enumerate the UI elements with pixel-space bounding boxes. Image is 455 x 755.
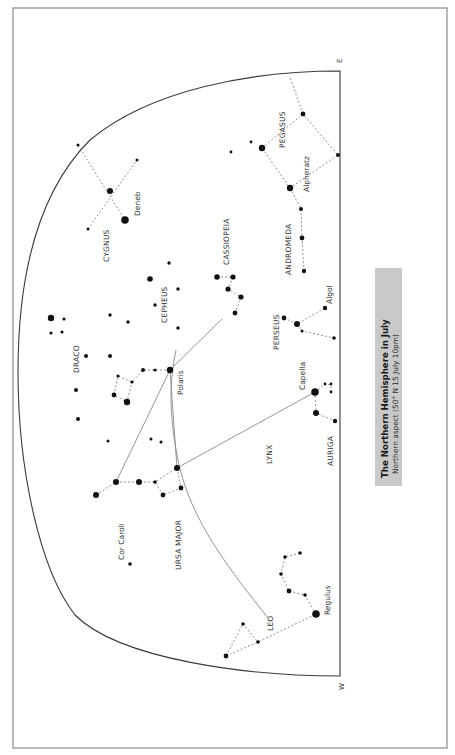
star-polaris [167, 367, 173, 373]
star-map: E W PEGASUS ANDROMEDA CASSIOPEIA CYGNUS … [0, 0, 455, 755]
label-ursa-major: URSA MAJOR [174, 520, 183, 570]
star [136, 479, 142, 485]
star [76, 417, 80, 421]
star [238, 294, 243, 299]
star [330, 391, 333, 394]
star [113, 479, 119, 485]
star [241, 622, 245, 626]
star [224, 654, 229, 659]
star [153, 480, 157, 484]
title-main: The Northern Hemisphere in July [380, 319, 390, 478]
star [230, 151, 233, 154]
star [49, 331, 52, 334]
star-regulus [312, 610, 320, 618]
perseus-lines [284, 308, 334, 338]
star [336, 153, 340, 157]
star [225, 286, 230, 291]
label-leo: LEO [266, 616, 275, 631]
label-perseus: PERSEUS [272, 314, 281, 350]
star [153, 303, 156, 306]
label-auriga: AURIGA [326, 435, 335, 466]
pointer-line-polaris-ursa [116, 370, 170, 482]
star [233, 311, 238, 316]
pegasus-lines [262, 77, 338, 188]
title-subtitle: Northern aspect (50° N 15 July 10pm) [391, 334, 400, 474]
label-lynx: LYNX [265, 445, 274, 464]
label-capella: Capella [298, 362, 307, 390]
star [179, 486, 184, 491]
leo-lines [226, 553, 316, 656]
star [108, 313, 111, 316]
star [301, 330, 304, 333]
star [283, 555, 287, 559]
star [324, 383, 327, 386]
label-alpheratz: Alpheratz [302, 156, 311, 192]
label-polaris: Polaris [176, 370, 185, 395]
title-box: The Northern Hemisphere in July Northern… [375, 268, 402, 486]
star [259, 145, 265, 151]
star [112, 393, 117, 398]
star [214, 274, 220, 280]
star [302, 269, 306, 273]
star [167, 261, 170, 264]
star [230, 274, 235, 279]
cygnus-lines [78, 145, 137, 229]
star [282, 316, 287, 321]
inner-arc [171, 350, 268, 618]
star [250, 141, 253, 144]
little-dipper-lines [114, 370, 170, 402]
star [279, 572, 283, 576]
label-cassiopeia: CASSIOPEIA [222, 218, 231, 265]
star [48, 315, 54, 321]
star [93, 492, 99, 498]
star [153, 368, 156, 371]
star-algol [323, 306, 327, 310]
star [313, 410, 319, 416]
star [176, 287, 179, 290]
label-cor-caroli: Cor Caroli [117, 523, 126, 560]
star [116, 374, 119, 377]
star [108, 354, 112, 358]
label-deneb: Deneb [133, 191, 142, 216]
star [160, 441, 163, 444]
star [333, 419, 337, 423]
star [147, 276, 153, 282]
star [77, 144, 80, 147]
cardinal-east: E [336, 59, 344, 63]
star [136, 159, 139, 162]
label-algol: Algol [325, 285, 334, 304]
star [150, 438, 153, 441]
label-andromeda: ANDROMEDA [284, 223, 293, 275]
star [256, 640, 260, 644]
star [299, 207, 303, 211]
star [174, 465, 180, 471]
star [287, 589, 292, 594]
star [60, 330, 63, 333]
star [161, 493, 166, 498]
star [74, 388, 78, 392]
star [87, 228, 90, 231]
label-cepheus: CEPHEUS [160, 286, 169, 323]
star [62, 317, 65, 320]
star [303, 593, 307, 597]
star [298, 551, 302, 555]
star [141, 368, 145, 372]
pointer-line-ursa-capella [177, 392, 315, 468]
cassiopeia-lines [217, 277, 241, 313]
star-cor-caroli [128, 562, 132, 566]
star-deneb [121, 216, 129, 224]
label-draco: DRACO [72, 345, 81, 373]
cardinal-west: W [338, 683, 346, 690]
star [330, 383, 333, 386]
star [124, 399, 130, 405]
star [107, 440, 110, 443]
label-regulus: Regulus [323, 585, 332, 615]
star-capella [311, 388, 319, 396]
star [107, 188, 113, 194]
star [126, 320, 129, 323]
star [176, 326, 179, 329]
star [300, 236, 305, 241]
star [294, 321, 300, 327]
star [301, 112, 306, 117]
star [130, 380, 133, 383]
